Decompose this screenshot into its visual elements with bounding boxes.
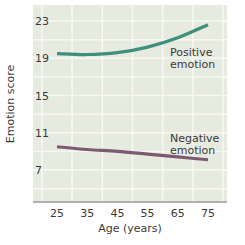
y-tick-label: 23 [35,15,49,28]
y-axis-label: Emotion score [4,65,17,144]
line-chart: 231915117 253545556575 PositiveemotionNe… [0,0,245,245]
x-tick-label: 45 [110,207,124,220]
svg-text:emotion: emotion [170,144,215,157]
negative-emotion-label: Negativeemotion [170,132,220,157]
x-tick-label: 25 [50,207,64,220]
x-tick-label: 75 [201,207,215,220]
x-tick-label: 35 [80,207,94,220]
plot-background [33,5,227,202]
y-tick-label: 19 [35,52,49,65]
x-tick-label: 55 [141,207,155,220]
positive-emotion-label: Positiveemotion [170,46,215,71]
y-tick-label: 11 [35,127,49,140]
y-tick-label: 15 [35,90,49,103]
x-axis-ticks: 253545556575 [50,207,215,220]
y-tick-label: 7 [35,164,42,177]
svg-text:emotion: emotion [170,58,215,71]
x-axis-label: Age (years) [98,222,162,235]
x-tick-label: 65 [171,207,185,220]
